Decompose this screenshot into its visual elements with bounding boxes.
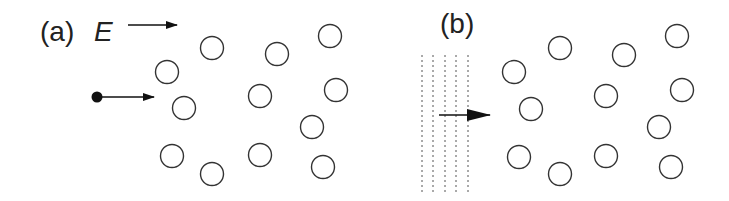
scatterer-circle: [249, 144, 272, 167]
scatterer-circle: [503, 61, 526, 84]
scatterer-circle: [508, 146, 531, 169]
panel-b: (b): [422, 8, 694, 192]
scatterer-circle: [319, 25, 342, 48]
scattering-diagram: (a) E (b): [0, 0, 729, 201]
scatterer-circle: [249, 85, 272, 108]
wavefronts: [422, 55, 468, 192]
scatterer-circle: [173, 97, 196, 120]
scatterer-circle: [671, 79, 694, 102]
scatterer-circle: [520, 98, 543, 121]
panel-a-label: (a): [40, 16, 74, 47]
scatterer-circle: [595, 85, 618, 108]
panel-a: (a) E: [40, 16, 348, 186]
scatterer-circle: [201, 37, 224, 60]
scatterer-circle: [201, 163, 224, 186]
scatterer-circle: [161, 145, 184, 168]
scatterer-circle: [266, 43, 289, 66]
scatterer-circle: [648, 116, 671, 139]
scatterer-circle: [613, 44, 636, 67]
scatterer-circle: [660, 156, 683, 179]
scatterers-a: [156, 25, 348, 186]
panel-b-label: (b): [440, 8, 474, 39]
scatterer-circle: [312, 156, 335, 179]
scatterer-circle: [595, 145, 618, 168]
scatterers-b: [503, 25, 694, 186]
scatterer-circle: [666, 25, 689, 48]
scatterer-circle: [156, 61, 179, 84]
scatterer-circle: [325, 79, 348, 102]
scatterer-circle: [549, 163, 572, 186]
field-label-E: E: [94, 16, 113, 47]
scatterer-circle: [301, 116, 324, 139]
scatterer-circle: [549, 37, 572, 60]
